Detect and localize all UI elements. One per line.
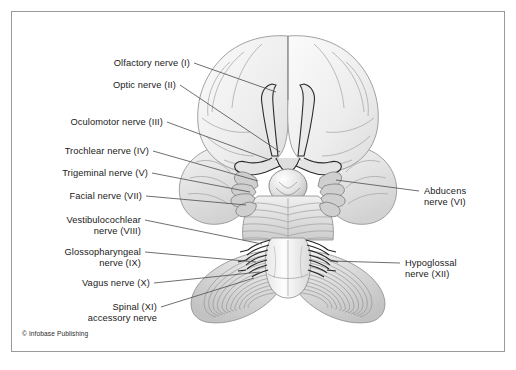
label-oculomotor-nerve: Oculomotor nerve (III) xyxy=(0,117,163,128)
label-vagus-nerve: Vagus nerve (X) xyxy=(0,278,150,289)
label-line: Optic nerve (II) xyxy=(0,80,176,91)
label-line: Abducens xyxy=(424,186,466,197)
label-line: nerve (XII) xyxy=(405,269,457,280)
label-line: Vestibulocochlear xyxy=(0,215,141,226)
label-line: nerve (VIII) xyxy=(0,226,141,237)
figure-canvas: Olfactory nerve (I) Optic nerve (II) Ocu… xyxy=(0,0,516,370)
label-line: Trigeminal nerve (V) xyxy=(0,168,148,179)
label-optic-nerve: Optic nerve (II) xyxy=(0,80,176,91)
label-line: accessory nerve xyxy=(0,313,157,324)
copyright-notice: © Infobase Publishing xyxy=(22,330,88,337)
label-line: nerve (VI) xyxy=(424,197,466,208)
label-line: Spinal (XI) xyxy=(0,302,157,313)
label-glossopharyngeal-nerve: Glossopharyngeal nerve (IX) xyxy=(0,247,141,269)
label-hypoglossal-nerve: Hypoglossal nerve (XII) xyxy=(405,258,457,280)
label-line: nerve (IX) xyxy=(0,258,141,269)
label-facial-nerve: Facial nerve (VII) xyxy=(0,191,142,202)
label-line: Trochlear nerve (IV) xyxy=(0,146,149,157)
label-vestibulocochlear-nerve: Vestibulocochlear nerve (VIII) xyxy=(0,215,141,237)
label-line: Vagus nerve (X) xyxy=(0,278,150,289)
label-line: Hypoglossal xyxy=(405,258,457,269)
label-abducens-nerve: Abducens nerve (VI) xyxy=(424,186,466,208)
label-trigeminal-nerve: Trigeminal nerve (V) xyxy=(0,168,148,179)
label-spinal-accessory-nerve: Spinal (XI) accessory nerve xyxy=(0,302,157,324)
label-trochlear-nerve: Trochlear nerve (IV) xyxy=(0,146,149,157)
label-olfactory-nerve: Olfactory nerve (I) xyxy=(0,58,190,69)
label-line: Facial nerve (VII) xyxy=(0,191,142,202)
label-line: Oculomotor nerve (III) xyxy=(0,117,163,128)
label-line: Olfactory nerve (I) xyxy=(0,58,190,69)
label-line: Glossopharyngeal xyxy=(0,247,141,258)
